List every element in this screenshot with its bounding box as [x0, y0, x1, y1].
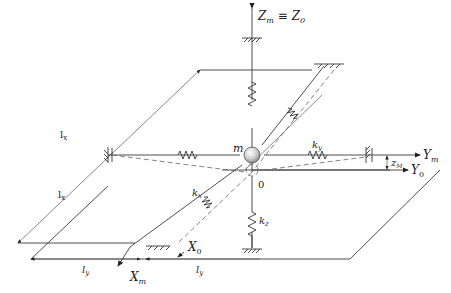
- ground-bottom-left-icon: [146, 246, 170, 250]
- mass-ball: [244, 147, 260, 163]
- x-0-dashed-axis: [252, 70, 334, 172]
- kz-label: kz: [259, 215, 269, 228]
- lx-top-label: lx: [60, 129, 67, 142]
- ly-right-label: ly: [196, 264, 204, 277]
- ground-right-icon: [366, 146, 372, 163]
- z-axis-label: Zm ≡ Z0: [257, 9, 305, 25]
- spring-z-upper-icon: [248, 82, 256, 106]
- mass-label: m: [233, 142, 243, 155]
- y0-label: Y0: [411, 163, 424, 179]
- lower-frame: [18, 95, 440, 259]
- xm-label: Xm: [129, 270, 147, 286]
- ground-top-right-icon: [314, 64, 344, 68]
- x-axis: [118, 66, 324, 266]
- zm-label: zM: [390, 157, 403, 169]
- upper-frame: [18, 70, 312, 243]
- mass-spring-diagram: Zm ≡ Z0 m 0 ky kz kx kx Ym Y0 zM Xm X0 l…: [0, 0, 451, 293]
- lx-left-label: lx: [58, 189, 65, 202]
- ly-left-label: ly: [82, 264, 90, 277]
- dashed-right-link: [264, 157, 366, 170]
- ground-bottom-icon: [242, 249, 262, 253]
- x0-label: X0: [187, 240, 202, 256]
- spring-kz-icon: [248, 212, 256, 236]
- ym-label: Ym: [423, 148, 439, 164]
- dashed-left-link: [112, 155, 244, 172]
- spring-kx-icon: [202, 197, 212, 208]
- origin-label: 0: [258, 179, 264, 190]
